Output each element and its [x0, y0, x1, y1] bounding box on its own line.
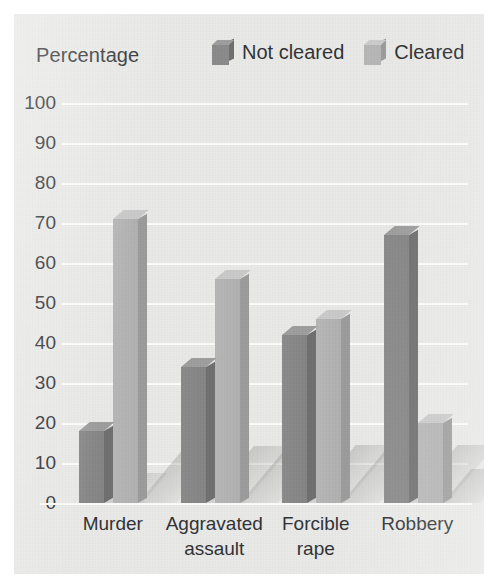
bar-not-cleared-robbery[interactable]: [384, 235, 409, 503]
y-tick-70: 70: [35, 212, 56, 234]
category-label-line1: Robbery: [353, 511, 483, 536]
bar-series-container: [62, 103, 468, 503]
y-axis-tick-labels: 1009080706050403020100: [14, 103, 62, 503]
plot-area: [62, 103, 468, 503]
category-label-robbery: Robbery: [353, 511, 483, 536]
legend-item-not-cleared[interactable]: Not cleared: [212, 40, 344, 65]
cube-icon-dark: [212, 40, 234, 65]
bar-not-cleared-murder[interactable]: [79, 431, 104, 503]
y-tick-10: 10: [35, 452, 56, 474]
category-label-line2: rape: [251, 536, 381, 561]
y-axis-title: Percentage: [36, 44, 139, 67]
bar-cleared-aggravated-assault[interactable]: [215, 279, 240, 503]
y-tick-50: 50: [35, 292, 56, 314]
y-tick-60: 60: [35, 252, 56, 274]
bar-cleared-forcible-rape[interactable]: [316, 319, 341, 503]
y-tick-40: 40: [35, 332, 56, 354]
y-tick-80: 80: [35, 172, 56, 194]
chart-legend: Not cleared Cleared: [212, 40, 464, 65]
legend-label-cleared: Cleared: [394, 41, 464, 64]
legend-item-cleared[interactable]: Cleared: [364, 40, 464, 65]
cube-icon-light: [364, 40, 386, 65]
y-tick-20: 20: [35, 412, 56, 434]
x-axis-category-labels: MurderAggravatedassaultForciblerapeRobbe…: [62, 511, 468, 573]
bar-cleared-robbery[interactable]: [418, 423, 443, 503]
x-axis-baseline: [40, 503, 472, 505]
legend-label-not-cleared: Not cleared: [242, 41, 344, 64]
bar-not-cleared-forcible-rape[interactable]: [282, 335, 307, 503]
y-tick-30: 30: [35, 372, 56, 394]
bar-not-cleared-aggravated-assault[interactable]: [181, 367, 206, 503]
chart-figure: Percentage Not cleared Cleared 100908070…: [14, 14, 484, 574]
y-tick-100: 100: [24, 92, 56, 114]
y-tick-90: 90: [35, 132, 56, 154]
bar-cleared-murder[interactable]: [113, 219, 138, 503]
